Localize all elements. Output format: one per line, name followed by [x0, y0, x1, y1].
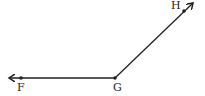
point-h	[182, 9, 186, 13]
point-g	[113, 76, 117, 80]
ray-gh	[115, 3, 193, 78]
point-f	[19, 76, 23, 80]
label-g: G	[113, 81, 122, 94]
angle-diagram: F G H	[0, 0, 205, 96]
label-f: F	[17, 81, 25, 94]
label-h: H	[171, 0, 181, 12]
